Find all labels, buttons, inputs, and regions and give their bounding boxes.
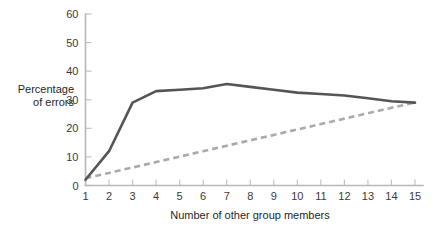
- y-tick-label: 40: [66, 65, 78, 77]
- x-tick-label: 11: [315, 190, 326, 202]
- x-tick-label: 4: [153, 190, 159, 202]
- y-tick-label: 60: [66, 8, 78, 20]
- x-tick-label: 2: [106, 190, 112, 202]
- x-tick-label: 12: [338, 190, 350, 202]
- x-tick-label: 7: [224, 190, 230, 202]
- y-tick-label: 10: [66, 151, 78, 163]
- x-tick-label: 5: [177, 190, 183, 202]
- x-tick-label: 3: [130, 190, 136, 202]
- x-tick-label: 1: [82, 190, 88, 202]
- x-tick-label: 13: [362, 190, 374, 202]
- x-tick-label: 10: [291, 190, 303, 202]
- x-tick-label: 9: [271, 190, 277, 202]
- x-axis-title: Number of other group members: [170, 209, 330, 221]
- line-chart: Percentage of errors 0102030405060 12345…: [0, 0, 436, 233]
- y-axis-ticks: 0102030405060: [66, 8, 91, 192]
- y-tick-label: 0: [72, 180, 78, 192]
- x-tick-label: 8: [247, 190, 253, 202]
- x-tick-label: 14: [385, 190, 397, 202]
- x-tick-label: 6: [200, 190, 206, 202]
- y-tick-label: 20: [66, 122, 78, 134]
- series-line-observed: [86, 84, 416, 180]
- y-tick-label: 50: [66, 37, 78, 49]
- series-line-predicted: [86, 103, 416, 179]
- x-tick-label: 15: [409, 190, 421, 202]
- chart-container: Percentage of errors 0102030405060 12345…: [0, 0, 436, 233]
- x-axis-ticks: 123456789101112131415: [82, 180, 421, 202]
- y-tick-label: 30: [66, 94, 78, 106]
